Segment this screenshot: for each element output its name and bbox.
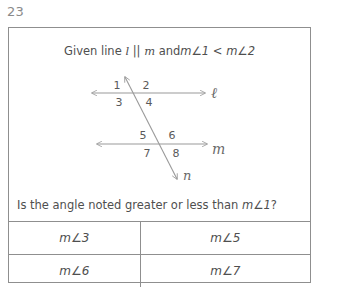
given-conjunction: and xyxy=(155,44,180,58)
answer-options-table: m∠3 m∠5 m∠6 m∠7 xyxy=(9,222,310,287)
transversal-n xyxy=(125,77,177,179)
given-statement: Given line l || m andm∠1 < m∠2 xyxy=(9,44,310,58)
answer-option-label: m∠7 xyxy=(210,264,240,278)
answer-option-label: m∠3 xyxy=(59,231,89,245)
transversal-label: n xyxy=(183,168,191,183)
measure-angle-2: m∠2 xyxy=(226,44,255,58)
question-number: 23 xyxy=(7,4,24,19)
angle-label-8: 8 xyxy=(173,147,180,160)
measure-angle-1: m∠1 xyxy=(180,44,209,58)
question-prefix: Is the angle noted greater or less than xyxy=(17,198,242,212)
problem-box: Given line l || m andm∠1 < m∠2 1 2 xyxy=(8,27,311,283)
geometry-figure: 1 2 3 4 5 6 7 8 ℓ m n xyxy=(9,64,310,186)
line-m-label: m xyxy=(212,141,225,157)
angle-label-6: 6 xyxy=(169,129,176,142)
parallel-lines-transversal-svg: 1 2 3 4 5 6 7 8 ℓ m n xyxy=(9,64,312,186)
question-reference-angle: m∠1 xyxy=(242,198,271,212)
given-prefix: Given line xyxy=(64,44,125,58)
less-than-symbol: < xyxy=(209,44,226,58)
line-m-name: m xyxy=(144,44,155,58)
angle-label-2: 2 xyxy=(143,79,150,92)
answer-option-label: m∠6 xyxy=(59,264,89,278)
angle-label-5: 5 xyxy=(140,129,147,142)
table-row: m∠3 m∠5 xyxy=(9,222,310,255)
answer-option-label: m∠5 xyxy=(210,231,240,245)
angle-label-3: 3 xyxy=(116,96,123,109)
line-l-label: ℓ xyxy=(211,84,217,102)
angle-label-4: 4 xyxy=(146,96,153,109)
answer-option-cell[interactable]: m∠6 xyxy=(9,255,140,288)
prompt-cell: Given line l || m andm∠1 < m∠2 1 2 xyxy=(9,28,310,222)
parallel-symbol: || xyxy=(129,44,144,58)
question-suffix: ? xyxy=(271,198,277,212)
table-row: m∠6 m∠7 xyxy=(9,255,310,288)
answer-option-cell[interactable]: m∠3 xyxy=(9,222,140,255)
angle-label-1: 1 xyxy=(114,79,121,92)
angle-label-7: 7 xyxy=(144,147,151,160)
answer-option-cell[interactable]: m∠5 xyxy=(140,222,310,255)
answer-option-cell[interactable]: m∠7 xyxy=(140,255,310,288)
question-prompt: Is the angle noted greater or less than … xyxy=(17,198,277,212)
